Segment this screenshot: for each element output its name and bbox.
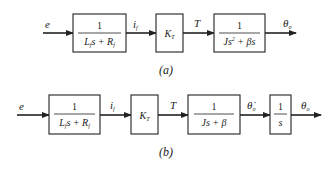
signal-thetadot-b: θ̇o: [247, 99, 256, 112]
block-diagram: e 1 Lfs + Rf if KT T 1 Js2 + βs θo (a) e…: [0, 0, 333, 170]
caption-a: (a): [159, 63, 173, 77]
signal-if-b: if: [110, 99, 116, 112]
signal-t-b: T: [170, 99, 177, 111]
block-integrator-b-den: s: [279, 117, 283, 128]
signal-t-a: T: [194, 17, 201, 29]
caption-b: (b): [159, 145, 173, 159]
block-field-b-den: Lfs + Rf: [58, 117, 91, 129]
diagram-a: e 1 Lfs + Rf if KT T 1 Js2 + βs θo (a): [43, 14, 296, 77]
signal-theta-a: θo: [283, 17, 291, 30]
signal-e-a: e: [45, 18, 50, 30]
block-load-b-den: Js + β: [201, 117, 226, 128]
block-load-a-num: 1: [237, 20, 242, 31]
block-field-a-den: Lfs + Rf: [83, 36, 116, 48]
block-field-b-num: 1: [72, 101, 77, 112]
diagram-b: e 1 Lfs + Rf if KT T 1 Js + β θ̇o 1 s θo…: [17, 95, 321, 159]
block-load-a-den: Js2 + βs: [224, 36, 256, 47]
block-integrator-b-num: 1: [278, 101, 283, 112]
signal-theta-b: θo: [301, 99, 309, 112]
block-field-a-num: 1: [97, 20, 102, 31]
signal-e-b: e: [19, 100, 24, 112]
block-load-b-num: 1: [212, 101, 217, 112]
signal-if-a: if: [133, 18, 139, 31]
